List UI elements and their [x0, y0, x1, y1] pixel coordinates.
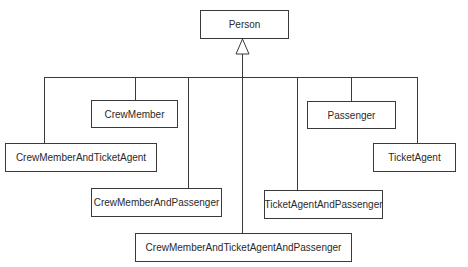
class-crew-member: CrewMember — [91, 100, 178, 128]
class-crew-member-and-ticket-agent: CrewMemberAndTicketAgent — [5, 143, 157, 172]
class-crew-member-label: CrewMember — [104, 109, 164, 120]
class-ticket-agent-and-passenger: TicketAgentAndPassenger — [264, 190, 383, 219]
class-passenger: Passenger — [307, 101, 396, 129]
class-diagram: Person CrewMember Passenger CrewMemberAn… — [0, 0, 468, 267]
generalization-arrowhead-icon — [236, 39, 249, 54]
class-crew-member-and-passenger: CrewMemberAndPassenger — [91, 188, 222, 217]
class-crew-member-and-passenger-label: CrewMemberAndPassenger — [94, 197, 220, 208]
class-ticket-agent-and-passenger-label: TicketAgentAndPassenger — [264, 199, 382, 210]
class-person-label: Person — [229, 19, 261, 30]
class-passenger-label: Passenger — [328, 110, 376, 121]
class-ticket-agent: TicketAgent — [373, 143, 456, 172]
class-person: Person — [200, 10, 289, 39]
class-crew-member-and-ticket-agent-and-passenger-label: CrewMemberAndTicketAgentAndPassenger — [146, 242, 342, 253]
class-crew-member-and-ticket-agent-label: CrewMemberAndTicketAgent — [16, 152, 146, 163]
class-crew-member-and-ticket-agent-and-passenger: CrewMemberAndTicketAgentAndPassenger — [135, 233, 352, 262]
generalization-connectors — [0, 0, 468, 267]
class-ticket-agent-label: TicketAgent — [388, 152, 440, 163]
